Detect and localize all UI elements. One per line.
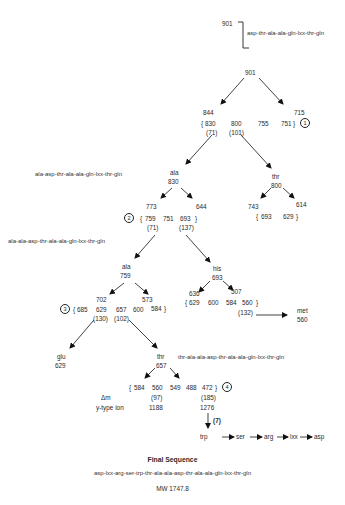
ala830-group-0: 759 (145, 215, 156, 222)
met-residue: met (297, 307, 308, 314)
ladder-residue-2: arg (264, 433, 273, 440)
glu-residue: glu (57, 353, 66, 360)
his693-mass: 693 (212, 274, 223, 281)
his693-delta: (132) (238, 309, 253, 316)
ala830-group-1: 751 (163, 215, 174, 222)
ala830-right-mass: 644 (196, 203, 207, 210)
parent-sequence: asp-thr-ala-ala-gln-lxx-thr-gln (247, 30, 324, 37)
root-mass: 901 (245, 69, 256, 76)
delta-m-label: Δm (101, 394, 111, 401)
level1-delta-1: (101) (229, 129, 244, 136)
thr657-brace-close: } (215, 384, 217, 391)
thr800-right-mass: 614 (296, 201, 307, 208)
marker-3: 3 (60, 304, 70, 314)
level1-group-0: 830 (205, 120, 216, 127)
thr800-brace-open: { (256, 213, 258, 220)
his693-group-1: 600 (208, 299, 219, 306)
his693-right-mass: 507 (231, 288, 242, 295)
thr800-residue: thr (272, 173, 279, 180)
his693-residue: his (213, 265, 221, 272)
thr657-delta-0: (97) (151, 394, 162, 401)
his693-group-2: 584 (226, 299, 237, 306)
y-ion-1: 1276 (200, 404, 214, 411)
thr800-group-0: 693 (261, 213, 272, 220)
thr800-mass: 800 (271, 182, 282, 189)
marker-2: 2 (124, 213, 134, 223)
ala759-left-mass: 702 (96, 296, 107, 303)
ala759-sequence: ala-ala-asp-thr-ala-ala-gln-lxx-thr-gln (8, 238, 105, 245)
level1-brace-open: { (201, 120, 203, 127)
thr657-group-4: 472 (202, 384, 213, 391)
y-type-ion-label: y-type ion (96, 404, 124, 411)
ala830-sequence: ala-asp-thr-ala-ala-gln-lxx-thr-gln (35, 171, 122, 178)
his693-brace-close: } (256, 299, 258, 306)
ala830-brace-close: } (195, 215, 197, 222)
tree-connectors (0, 0, 345, 505)
his693-group-0: 629 (189, 299, 200, 306)
his693-group-3: 560 (242, 299, 253, 306)
final-mw: MW 1747.8 (0, 485, 345, 492)
marker-1: 1 (300, 118, 310, 128)
thr657-residue: thr (157, 353, 164, 360)
ala830-residue: ala (170, 169, 179, 176)
ala830-brace-open: { (140, 215, 142, 222)
ala759-delta-1: (102) (114, 315, 129, 322)
ala759-group-4: 584 (151, 305, 162, 312)
ala759-residue: ala (122, 263, 131, 270)
ala759-mass: 759 (120, 272, 131, 279)
ala759-delta-0: (130) (93, 315, 108, 322)
thr800-brace-close: } (296, 213, 298, 220)
thr800-group-1: 629 (283, 213, 294, 220)
thr657-group-0: 584 (134, 384, 145, 391)
ala759-group-3: 600 (133, 306, 144, 313)
ala759-brace-close: } (164, 305, 166, 312)
level1-group-3: 751 (281, 120, 292, 127)
ala830-left-mass: 773 (146, 203, 157, 210)
step-label: (7) (213, 417, 221, 424)
ladder-residue-0: trp (200, 433, 207, 440)
thr657-delta-1: (185) (201, 394, 216, 401)
ala759-group-2: 657 (116, 306, 127, 313)
ala759-group-0: 685 (77, 306, 88, 313)
thr800-left-mass: 743 (248, 203, 259, 210)
level1-brace-close: } (293, 120, 295, 127)
level1-group-1: 800 (231, 120, 242, 127)
thr657-group-2: 549 (170, 384, 181, 391)
final-sequence: asp-lxx-arg-ser-trp-thr-ala-ala-asp-thr-… (0, 470, 345, 477)
y-ion-0: 1188 (149, 404, 163, 411)
level1-delta-0: (71) (206, 129, 217, 136)
thr657-group-3: 488 (186, 384, 197, 391)
ala759-right-mass: 573 (142, 296, 153, 303)
ladder-residue-4: asp (314, 433, 324, 440)
ala830-mass: 830 (168, 178, 179, 185)
thr657-group-1: 560 (152, 384, 163, 391)
ala830-delta-1: (137) (179, 224, 194, 231)
level1-right-mass: 715 (294, 109, 305, 116)
thr657-brace-open: { (129, 384, 131, 391)
ala759-group-1: 629 (96, 306, 107, 313)
ala759-brace-open: { (73, 306, 75, 313)
level1-group-2: 755 (258, 120, 269, 127)
marker-4: 4 (222, 382, 232, 392)
ladder-residue-1: ser (236, 433, 245, 440)
glu-mass: 629 (55, 362, 66, 369)
final-title: Final Sequence (0, 456, 345, 463)
thr657-mass: 657 (156, 362, 167, 369)
parent-mass: 901 (222, 20, 233, 27)
his693-brace-open: { (185, 299, 187, 306)
ladder-residue-3: lxx (290, 433, 298, 440)
met-mass: 560 (297, 316, 308, 323)
his693-left-mass: 636 (189, 290, 200, 297)
ala830-delta-0: (71) (147, 224, 158, 231)
thr657-sequence: thr-ala-ala-asp-thr-ala-ala-gln-lxx-thr-… (178, 354, 284, 361)
level1-left-mass: 844 (203, 109, 214, 116)
ala830-group-2: 693 (180, 215, 191, 222)
